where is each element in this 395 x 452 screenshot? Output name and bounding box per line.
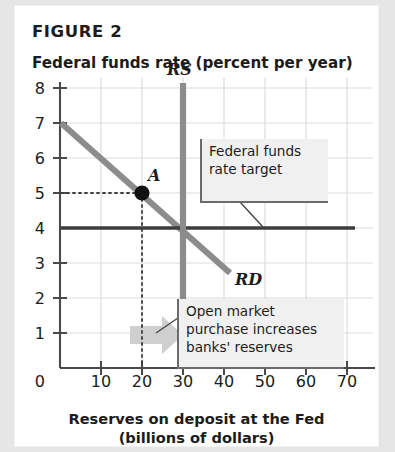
point-a-label: A (148, 166, 160, 185)
y-tick-label-7: 7 (23, 114, 45, 133)
x-tick-label-30: 30 (168, 372, 198, 391)
rd-curve-label: RD (235, 270, 262, 289)
y-tick-label-0: 0 (23, 372, 45, 391)
y-tick-label-6: 6 (23, 149, 45, 168)
y-tick-label-1: 1 (23, 324, 45, 343)
x-tick-label-70: 70 (332, 372, 362, 391)
target-callout-leader-line (240, 202, 263, 227)
point-a-marker (134, 185, 149, 200)
y-tick-label-3: 3 (23, 254, 45, 273)
y-tick-label-5: 5 (23, 184, 45, 203)
gridlines-horizontal (60, 88, 373, 333)
plot-area: 8 7 6 5 4 3 2 1 0 10 20 30 40 50 60 70 R… (15, 6, 378, 446)
x-tick-label-50: 50 (250, 372, 280, 391)
open-market-arrow-icon (130, 316, 183, 354)
x-tick-label-60: 60 (291, 372, 321, 391)
figure-card: FIGURE 2 Federal funds rate (percent per… (15, 6, 378, 446)
y-tick-label-4: 4 (23, 219, 45, 238)
y-tick-label-8: 8 (23, 79, 45, 98)
x-tick-label-10: 10 (86, 372, 116, 391)
open-market-purchase-callout: Open market purchase increases banks' re… (177, 299, 344, 369)
y-tick-label-2: 2 (23, 289, 45, 308)
x-tick-label-20: 20 (127, 372, 157, 391)
x-axis-title: Reserves on deposit at the Fed (billions… (15, 410, 378, 447)
x-tick-label-40: 40 (209, 372, 239, 391)
figure-container: FIGURE 2 Federal funds rate (percent per… (0, 0, 395, 452)
rs-curve-label: RS (167, 60, 192, 79)
federal-funds-target-callout: Federal funds rate target (200, 139, 328, 203)
